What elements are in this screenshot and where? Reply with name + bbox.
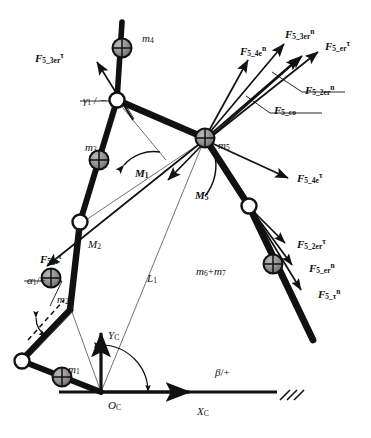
label-f_5_er_n: F5_ern xyxy=(309,262,335,275)
label-L1: L1 xyxy=(147,273,157,285)
force-arrow-f_5_3er_n xyxy=(205,44,284,138)
label-f_5_2er_n: F5_2ern xyxy=(305,84,334,97)
force-arrow-f_5_2er_n xyxy=(207,56,302,140)
label-gamma1: γ1 / − xyxy=(83,95,106,107)
moment-arc-M1 xyxy=(124,152,160,165)
figure-canvas: F5_3erτ F5_4en F5_3ern F5_erτ F5_2ern F5… xyxy=(0,0,371,438)
link-m2-to-M2 xyxy=(70,222,80,310)
label-f_5_co: F5_co xyxy=(274,105,296,117)
label-f_5_2er_tau: F5_2erτ xyxy=(297,238,326,251)
force-vectors xyxy=(47,44,318,290)
dimension-line-L1 xyxy=(101,138,205,392)
force-arrow-f_5_tau_tau xyxy=(47,141,203,266)
force-arrow-f_5_er_tau xyxy=(206,52,318,141)
label-f_5_3er_n: F5_3ern xyxy=(285,28,314,41)
diagram-vector-layer xyxy=(0,0,371,438)
angle-arc-beta xyxy=(101,345,148,392)
label-Yc: YC xyxy=(108,330,119,342)
label-beta: β/+ xyxy=(215,367,230,378)
label-f_5_3er_tau_left: F5_3erτ xyxy=(35,52,64,65)
link-upper-joint-to-m4-top xyxy=(117,22,122,100)
joint-right-elbow xyxy=(242,199,257,214)
joint-ground-pivot xyxy=(15,354,30,369)
link-upper-joint-to-hub xyxy=(117,100,205,138)
mass-marker-m4 xyxy=(113,39,132,58)
label-m2: m2 xyxy=(57,294,69,306)
link-ground-to-m2 xyxy=(22,310,70,360)
label-f_5_er_tau: F5_erτ xyxy=(325,40,350,53)
label-m1: m1 xyxy=(68,364,80,376)
construction-lines xyxy=(24,102,205,392)
label-Xc: XC xyxy=(197,406,209,418)
label-f_5_4e_n: F5_4en xyxy=(240,45,266,58)
label-m3: m3 xyxy=(85,142,97,154)
hatched-ground-icon xyxy=(280,390,304,400)
mechanism-links xyxy=(22,22,313,392)
label-f_5_tau_n: F5_τn xyxy=(318,288,340,301)
label-m5: m5 xyxy=(218,140,230,152)
joint-upper xyxy=(110,93,125,108)
joint-M2 xyxy=(73,215,88,230)
link-right-elbow-to-foot xyxy=(249,206,313,340)
label-Oc: OC xyxy=(108,400,121,412)
label-M2: M2 xyxy=(88,239,101,251)
force-arrow-f_5_4e_n xyxy=(205,60,248,138)
label-M5: M5 xyxy=(195,190,209,202)
label-alpha1: α1/+ xyxy=(27,275,46,287)
label-m4: m4 xyxy=(142,33,154,45)
label-f_5_4e_tau: F5_4eτ xyxy=(297,172,322,185)
label-f_5_tau_tau: F5_ττ xyxy=(40,253,62,266)
force-arrow-f_5_tau_n xyxy=(252,210,301,290)
mass-marker-m6m7 xyxy=(264,255,283,274)
label-M1: M1 xyxy=(135,168,149,180)
label-m6m7: m6+m7 xyxy=(196,266,226,278)
mass-marker-m5-hub xyxy=(196,129,215,148)
